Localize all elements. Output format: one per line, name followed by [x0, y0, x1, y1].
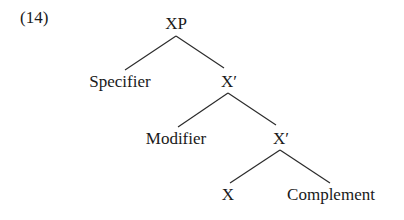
edge-xbar1-xbar2 [228, 93, 276, 125]
node-x: X [222, 185, 234, 205]
edge-xbar2-complement [280, 150, 330, 183]
edge-xp-specifier [125, 36, 176, 70]
node-x-bar-1: X′ [221, 72, 237, 92]
node-modifier: Modifier [146, 129, 206, 149]
edge-xp-xbar1 [176, 36, 224, 68]
node-complement: Complement [287, 185, 375, 205]
node-x-bar-2: X′ [273, 129, 289, 149]
node-specifier: Specifier [89, 72, 150, 92]
node-xp: XP [165, 14, 187, 34]
edge-xbar2-x [230, 150, 280, 183]
edge-xbar1-modifier [178, 93, 228, 127]
